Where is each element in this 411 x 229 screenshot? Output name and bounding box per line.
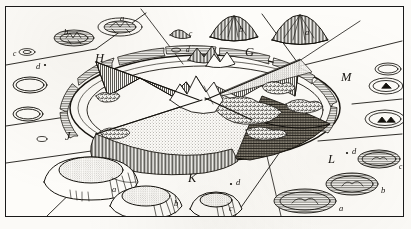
label-bl-a: a	[112, 185, 116, 194]
label-K: K	[188, 172, 197, 185]
specimen-top-left-c	[19, 49, 35, 56]
specimen-cone-a	[272, 15, 328, 45]
label-M: M	[341, 71, 352, 84]
label-L: L	[328, 153, 335, 166]
label-tl-b: b	[64, 28, 68, 37]
label-bc-d: d	[236, 178, 240, 187]
specimen-left-ring-upper	[13, 77, 47, 93]
label-tl-d: d	[36, 62, 40, 71]
specimen-left-pit	[37, 137, 47, 142]
label-tr-b: b	[239, 25, 243, 34]
label-tl-c: c	[13, 50, 16, 58]
specimen-br-b	[326, 173, 378, 195]
label-tc-d: d	[186, 46, 190, 54]
label-br-d: d	[352, 147, 356, 156]
label-tr-a: a	[305, 28, 309, 37]
specimen-top-centre-c	[170, 30, 191, 39]
label-tc-c: c	[189, 30, 192, 38]
label-tl-a: a	[120, 14, 124, 23]
engraving-plate: H G J K L M b a c d c d b a a b c d d c …	[0, 0, 411, 229]
label-J: J	[65, 130, 71, 143]
label-br-a: a	[339, 204, 343, 213]
label-br-b: b	[381, 186, 385, 195]
label-H: H	[95, 52, 104, 65]
specimen-bottom-centre-d	[230, 183, 232, 185]
label-bl-c: c	[229, 204, 233, 213]
specimen-cone-b	[210, 16, 258, 41]
specimen-left-ring-lower	[13, 107, 43, 121]
specimen-top-left-d	[44, 64, 46, 66]
label-bl-b: b	[174, 199, 178, 208]
specimen-right-ring-twin	[365, 110, 405, 128]
specimen-br-c	[358, 150, 400, 168]
plate-artwork	[0, 0, 411, 229]
specimen-right-ring-plain	[375, 63, 401, 75]
label-br-c: c	[399, 163, 402, 171]
specimen-br-d	[346, 152, 348, 154]
specimen-right-ring-peak	[369, 78, 403, 94]
specimen-br-a	[274, 189, 336, 213]
specimen-bottom-c	[190, 192, 242, 219]
specimen-top-left-b	[54, 30, 94, 46]
label-G: G	[245, 46, 254, 59]
